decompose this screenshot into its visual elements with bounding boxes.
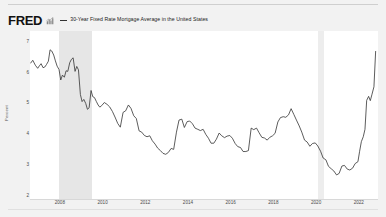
series-line (30, 50, 375, 175)
y-axis-tick-labels: 765432 (14, 29, 30, 199)
x-axis-tick: 2022 (354, 201, 364, 206)
plot-area (30, 31, 378, 199)
y-axis-tick: 3 (26, 163, 29, 168)
fred-logo[interactable]: FRED (8, 14, 42, 27)
y-axis-tick: 4 (26, 132, 29, 137)
y-axis-tick: 5 (26, 101, 29, 106)
x-axis-tick: 2008 (55, 201, 65, 206)
x-axis-tick: 2018 (268, 201, 278, 206)
y-axis-tick: 2 (26, 194, 29, 199)
series-legend-label: 30-Year Fixed Rate Mortgage Average in t… (70, 17, 208, 22)
y-axis-tick: 7 (26, 39, 29, 44)
bottom-divider (8, 209, 378, 210)
chart-header: FRED 30-Year Fixed Rate Mortgage Average… (0, 11, 386, 29)
mortgage-rate-line-series (30, 31, 378, 199)
top-divider (8, 4, 378, 5)
fred-chart-screenshot: FRED 30-Year Fixed Rate Mortgage Average… (0, 0, 386, 217)
x-axis-tick: 2012 (140, 201, 150, 206)
y-axis-title: Percent (4, 105, 9, 121)
mini-bar-chart-icon (46, 16, 55, 25)
x-axis-tick: 2010 (97, 201, 107, 206)
legend-line-marker (60, 20, 67, 21)
y-axis-tick: 6 (26, 70, 29, 75)
plot-container: Percent 765432 2008201020122014201620182… (0, 29, 386, 217)
x-axis-line (30, 199, 378, 200)
x-axis-tick: 2016 (226, 201, 236, 206)
x-axis-tick: 2014 (183, 201, 193, 206)
x-axis-tick: 2020 (311, 201, 321, 206)
